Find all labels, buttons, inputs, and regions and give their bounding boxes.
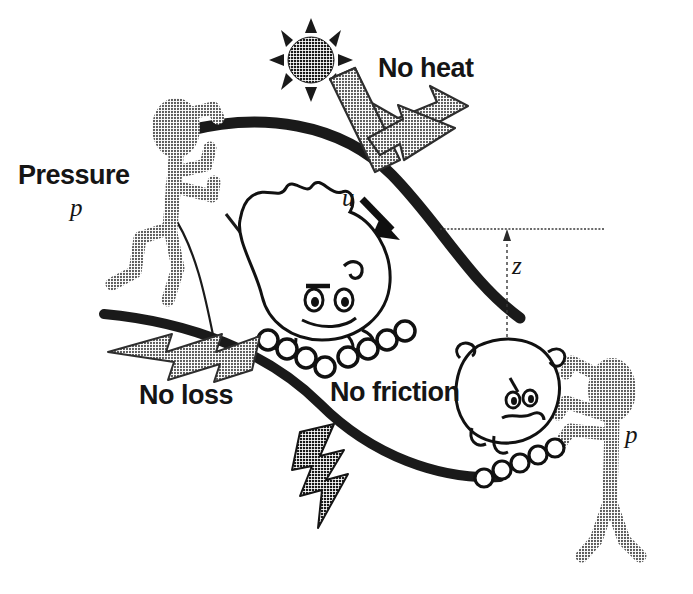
figure-canvas xyxy=(0,0,693,594)
pressure-pusher-right xyxy=(558,358,640,556)
elevation-symbol: z xyxy=(512,252,522,280)
roller-skate-icon xyxy=(475,439,564,487)
sad-fluid-particle xyxy=(456,339,565,453)
no-loss-label: No loss xyxy=(139,380,233,411)
bernoulli-cartoon-figure: Pressure p No heat u z No loss No fricti… xyxy=(0,0,693,594)
no-friction-label: No friction xyxy=(330,377,460,408)
pressure-label: Pressure xyxy=(18,160,130,191)
velocity-symbol: u xyxy=(342,184,355,212)
pressure-symbol: p xyxy=(70,194,83,222)
loss-bolt-down-icon xyxy=(292,424,348,528)
loss-bolt-arrow-left-icon xyxy=(108,334,260,382)
pressure-symbol-right: p xyxy=(625,421,638,449)
no-heat-label: No heat xyxy=(378,53,474,84)
